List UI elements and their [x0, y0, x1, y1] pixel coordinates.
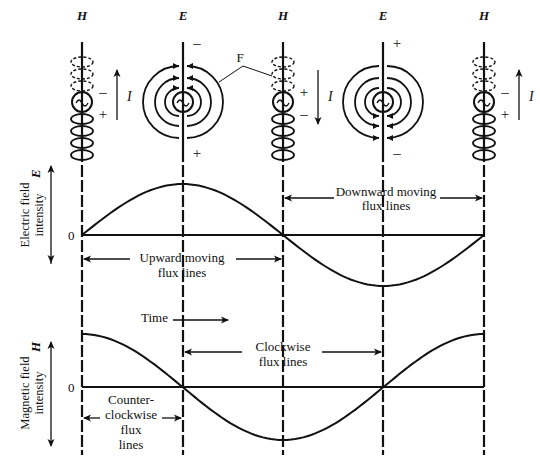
polarity-top: + [300, 84, 308, 100]
polarity-top: + [393, 35, 401, 51]
antenna-field-diagram: HEHEH –+I–++–I+––+I 0 E Electric field i… [0, 0, 540, 463]
polarity-bottom: + [501, 106, 509, 122]
e-axis-label-1: Electric field [18, 182, 32, 248]
top-label-h: H [277, 8, 289, 23]
ccw-label-4: lines [119, 437, 144, 452]
antenna-h: –+I [71, 57, 133, 160]
flux-arrowhead [173, 75, 179, 81]
polarity-bottom: – [299, 106, 308, 122]
current-label: I [126, 89, 133, 104]
ccw-label-3: flux [121, 422, 142, 437]
flux-arrowhead [187, 85, 193, 91]
flux-arrowhead [187, 63, 193, 69]
h-axis-symbol: H [28, 341, 43, 353]
e-zero-label: 0 [68, 228, 75, 243]
top-label-h: H [76, 8, 88, 23]
downward-label-1: Downward moving [336, 184, 437, 199]
polarity-top: – [500, 84, 509, 100]
flux-arrowhead [173, 63, 179, 69]
antenna-h: +–I [272, 57, 334, 160]
top-label-e: E [178, 8, 188, 23]
flux-arrowhead [387, 135, 393, 141]
downward-label-2: flux lines [362, 198, 411, 213]
polarity-bottom: + [99, 106, 107, 122]
current-label: I [528, 89, 535, 104]
flux-arrowhead [173, 85, 179, 91]
upward-label-1: Upward moving [140, 250, 225, 265]
flux-arrowhead [373, 123, 379, 129]
flux-arrowhead [373, 135, 379, 141]
clockwise-label-1: Clockwise [256, 339, 311, 354]
polarity-bottom: – [392, 145, 401, 161]
electric-field-graph: 0 E Electric field intensity Upward movi… [18, 166, 484, 286]
ccw-label-2: clockwise [105, 407, 157, 422]
magnetic-field-graph: 0 H Magnetic field intensity Time Clockw… [18, 310, 484, 452]
antenna-h: –+I [473, 57, 535, 160]
flux-arrowhead [387, 123, 393, 129]
clockwise-label-2: flux lines [259, 354, 308, 369]
e-axis-label-2: intensity [32, 193, 46, 237]
field-label-f: F [219, 50, 272, 82]
ccw-label-1: Counter- [108, 392, 154, 407]
flux-arrowhead [373, 113, 379, 119]
top-label-e: E [378, 8, 388, 23]
polarity-top: – [192, 35, 201, 51]
e-axis-symbol: E [28, 169, 43, 179]
polarity-top: – [98, 84, 107, 100]
flux-arrowhead [387, 113, 393, 119]
polarity-bottom: + [193, 145, 201, 161]
top-label-h: H [478, 8, 490, 23]
time-label: Time [141, 310, 168, 325]
flux-arrowhead [187, 75, 193, 81]
upward-label-2: flux lines [158, 265, 207, 280]
h-axis-label-2: intensity [32, 371, 46, 415]
h-zero-label: 0 [68, 380, 75, 395]
f-leader-line [219, 66, 272, 82]
h-axis-label-1: Magnetic field [18, 356, 32, 430]
f-label: F [236, 50, 243, 65]
current-label: I [327, 89, 334, 104]
